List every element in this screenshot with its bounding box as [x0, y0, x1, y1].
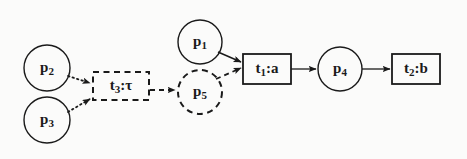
place-p3-circle	[24, 97, 70, 143]
arc-p1-to-t1	[218, 52, 241, 62]
place-p5-circle	[178, 70, 222, 114]
transition-t3-box	[93, 72, 149, 100]
place-p4-circle	[318, 47, 362, 91]
petri-net-diagram: p2 p3 p1 p5 p4 t3:τ t1:a t2:b	[0, 0, 467, 159]
transition-t2-box	[392, 54, 440, 84]
arc-p3-to-t3	[68, 99, 90, 112]
transition-t1-box	[243, 54, 291, 84]
arc-p5-to-t1	[216, 68, 241, 79]
diagram-canvas	[0, 0, 467, 159]
arc-p2-to-t3	[68, 76, 90, 83]
place-p2-circle	[24, 45, 70, 91]
place-p1-circle	[178, 20, 222, 64]
